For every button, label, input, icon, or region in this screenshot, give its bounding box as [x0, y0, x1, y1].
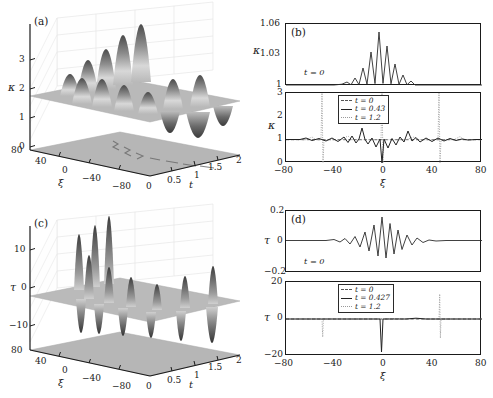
panel-b-top-annotation: t = 0: [304, 68, 325, 76]
panel-b-top-ytick-103: 1.03: [260, 49, 280, 58]
panel-b-line-plots: (b) t = 0 κ 1.06 1.03 1 t = 0 t = 0.43: [250, 0, 493, 198]
panel-d-bottom-axes: t = 0 t = 0.427 t = 1.2: [285, 281, 481, 355]
panel-a-ytick-15: 1.5: [208, 163, 222, 172]
panel-b-top-ytick-106: 1.06: [260, 19, 280, 28]
panel-b-bottom-axes: t = 0 t = 0.43 t = 1.2: [285, 92, 481, 162]
panel-a-ztick-1: 1: [19, 113, 25, 122]
panel-c-xtick-m40: −40: [82, 374, 101, 383]
panel-d-legend: t = 0 t = 0.427 t = 1.2: [338, 284, 394, 313]
panel-a-yaxis-label: t: [189, 180, 193, 190]
panel-d-xaxis-label: ξ: [380, 371, 386, 381]
panel-a-canvas: (a) κ 3 2 1 0 80 40 0 −40 −80 ξ 0 0.5 1 …: [0, 0, 250, 198]
panel-a-xaxis-label: ξ: [58, 178, 64, 188]
panel-a-zaxis-label: κ: [8, 83, 15, 93]
panel-b-legend-label-2: t = 1.2: [355, 114, 381, 122]
panel-d-top-ytick-m02: −0.2: [264, 267, 286, 276]
panel-c-canvas: (c) τ 10 0 −10 80 40 0 −40 −80 ξ 0 0.5 1…: [0, 198, 250, 396]
panel-c-ytick-0: 0: [146, 382, 152, 391]
panel-d-xtick-0: 0: [380, 359, 386, 368]
panel-c-tag: (c): [34, 218, 48, 229]
panel-d-curve-t0427: [286, 318, 482, 352]
panel-b-bottom-ytick-3: 3: [277, 88, 283, 97]
panel-a-ytick-1: 1: [194, 171, 200, 180]
panel-d-legend-label-2: t = 1.2: [355, 303, 381, 311]
panel-d-legend-item-2: t = 1.2: [341, 303, 390, 311]
panel-a-ytick-0: 0: [146, 182, 152, 191]
panel-c-ytick-1: 1: [194, 371, 200, 380]
legend-line-dashed-icon: [341, 100, 352, 102]
panel-b-xtick-80: 80: [475, 166, 486, 175]
panel-d-top-curve: [286, 217, 482, 258]
panel-b-xaxis-label: ξ: [380, 178, 386, 188]
panel-b-legend: t = 0 t = 0.43 t = 1.2: [338, 95, 389, 124]
legend-line-solid-icon: [341, 298, 352, 300]
panel-c-xaxis-label: ξ: [58, 378, 64, 388]
legend-line-dotted-icon: [341, 117, 352, 119]
panel-d-bottom-yaxis-label: τ: [264, 313, 270, 323]
panel-a-xtick-80: 80: [11, 146, 22, 155]
panel-d-bottom-ytick-0: 0: [277, 313, 283, 322]
panel-a-xtick-40: 40: [35, 157, 46, 166]
panel-b-bottom-ytick-1: 1: [277, 134, 283, 143]
panel-c-xtick-m80: −80: [112, 382, 131, 391]
legend-line-dashed-icon: [341, 289, 352, 291]
panel-a-xtick-0: 0: [62, 166, 68, 175]
panel-d-top-axes: (d) t = 0: [285, 210, 481, 272]
panel-d-tag: (d): [291, 214, 306, 225]
panel-d-top-ytick-0: 0: [277, 236, 283, 245]
panel-a-xtick-m40: −40: [82, 174, 101, 183]
legend-line-solid-icon: [341, 109, 352, 111]
legend-line-dotted-icon: [341, 306, 352, 308]
panel-c-ztick-10: 10: [14, 245, 25, 254]
panel-b-legend-item-2: t = 1.2: [341, 114, 385, 122]
panel-c-xtick-0: 0: [62, 366, 68, 375]
panel-d-xtick-m40: −40: [323, 359, 342, 368]
panel-b-tag: (b): [291, 27, 306, 38]
panel-d-xtick-80: 80: [475, 359, 486, 368]
panel-a-xtick-m80: −80: [112, 182, 131, 191]
panel-a-ytick-05: 0.5: [167, 176, 181, 185]
panel-c-ytick-2: 2: [236, 356, 242, 365]
panel-c-ytick-05: 0.5: [167, 376, 181, 385]
panel-d-xtick-m80: −80: [274, 359, 293, 368]
panel-c-ytick-15: 1.5: [208, 363, 222, 372]
panel-c-sidewall-grid: [30, 220, 57, 342]
panel-c-ztick-0: 0: [21, 283, 27, 292]
panel-d-xtick-40: 40: [426, 359, 437, 368]
panel-c-ztick-m10: −10: [9, 321, 28, 330]
panel-d-bottom-ytick-20: 20: [271, 277, 282, 286]
panel-c-surface-plot: (c) τ 10 0 −10 80 40 0 −40 −80 ξ 0 0.5 1…: [0, 198, 250, 396]
panel-c-xtick-40: 40: [35, 357, 46, 366]
panel-b-xtick-40: 40: [426, 166, 437, 175]
panel-c-xtick-80: 80: [11, 346, 22, 355]
panel-a-ytick-2: 2: [236, 156, 242, 165]
panel-a-ztick-2: 2: [19, 84, 25, 93]
panel-b-xtick-m40: −40: [323, 166, 342, 175]
panel-b-top-axes: (b) t = 0: [285, 23, 481, 85]
panel-b-xtick-m80: −80: [274, 166, 293, 175]
panel-a-ztick-3: 3: [19, 55, 25, 64]
panel-a-sidewall-grid: [30, 18, 57, 140]
panel-d-line-plots: (d) t = 0 τ 0.2 0 −0.2 t = 0 t = 0.427: [250, 198, 493, 398]
panel-d-top-yaxis-label: τ: [264, 236, 270, 246]
panel-c-zaxis-label: τ: [10, 283, 16, 293]
panel-d-top-ytick-02: 0.2: [270, 206, 284, 215]
panel-c-yaxis-label: t: [189, 380, 193, 390]
panel-b-bottom-yaxis-label: κ: [268, 121, 275, 131]
panel-b-bottom-ytick-2: 2: [277, 111, 283, 120]
panel-b-top-curve: [286, 32, 482, 85]
panel-d-top-annotation: t = 0: [304, 257, 325, 265]
panel-b-xtick-0: 0: [380, 166, 386, 175]
panel-a-surface-plot: (a) κ 3 2 1 0 80 40 0 −40 −80 ξ 0 0.5 1 …: [0, 0, 250, 198]
panel-a-tag: (a): [34, 16, 48, 27]
